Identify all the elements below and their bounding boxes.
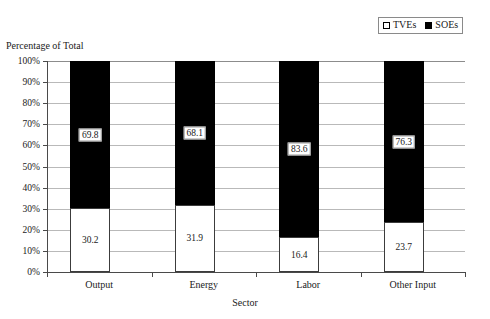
- filled-square-icon: [425, 22, 432, 29]
- y-axis-tick-label: 20%: [0, 225, 40, 235]
- y-axis-tick-labels: 0%10%20%30%40%50%60%70%80%90%100%: [0, 61, 45, 272]
- legend-label-soes: SOEs: [435, 19, 458, 31]
- bar-segment-tves[interactable]: 23.7: [384, 222, 424, 272]
- x-axis-tick-mark: [361, 272, 362, 277]
- bar-value-label-tves: 30.2: [80, 235, 101, 246]
- bar-segment-tves[interactable]: 31.9: [175, 205, 215, 272]
- stacked-bar[interactable]: 30.269.8: [70, 61, 110, 272]
- stacked-bar[interactable]: 23.776.3: [384, 61, 424, 272]
- bar-value-label-soes: 68.1: [183, 126, 206, 139]
- plot-area: 30.269.831.968.116.483.623.776.3: [47, 61, 465, 272]
- bar-segment-soes[interactable]: 76.3: [384, 61, 424, 222]
- x-axis-tick-label: Energy: [189, 279, 218, 291]
- x-axis-tick-label: Other Input: [390, 279, 436, 291]
- legend-item-tves: TVEs: [383, 19, 416, 31]
- y-axis-tick-label: 80%: [0, 98, 40, 108]
- x-axis-title: Sector: [0, 297, 490, 309]
- x-axis-tick-mark: [465, 272, 466, 277]
- bar-segment-tves[interactable]: 30.2: [70, 208, 110, 272]
- x-axis-tick-mark: [47, 272, 48, 277]
- hollow-square-icon: [383, 22, 390, 29]
- bar-value-label-tves: 16.4: [289, 249, 310, 260]
- bar-segment-soes[interactable]: 69.8: [70, 61, 110, 208]
- legend-label-tves: TVEs: [393, 19, 416, 31]
- bar-value-label-tves: 31.9: [184, 233, 205, 244]
- y-axis-tick-label: 90%: [0, 77, 40, 87]
- y-axis-tick-label: 70%: [0, 119, 40, 129]
- bar-segment-soes[interactable]: 83.6: [279, 61, 319, 237]
- y-axis-tick-label: 0%: [0, 267, 40, 277]
- bar-value-label-soes: 83.6: [288, 143, 311, 156]
- bar-segment-tves[interactable]: 16.4: [279, 237, 319, 272]
- y-axis-line: [47, 61, 48, 273]
- y-axis-tick-label: 10%: [0, 246, 40, 256]
- stacked-bar[interactable]: 31.968.1: [175, 61, 215, 272]
- bar-value-label-soes: 76.3: [392, 135, 415, 148]
- x-axis-tick-mark: [152, 272, 153, 277]
- y-axis-tick-label: 100%: [0, 56, 40, 66]
- legend-item-soes: SOEs: [425, 19, 458, 31]
- stacked-bar[interactable]: 16.483.6: [279, 61, 319, 272]
- y-axis-tick-label: 50%: [0, 162, 40, 172]
- y-axis-tick-label: 60%: [0, 140, 40, 150]
- x-axis-tick-mark: [256, 272, 257, 277]
- bar-value-label-soes: 69.8: [79, 128, 102, 141]
- bar-value-label-tves: 23.7: [393, 242, 414, 253]
- y-axis-title: Percentage of Total: [6, 40, 83, 52]
- bar-segment-soes[interactable]: 68.1: [175, 61, 215, 205]
- x-axis-tick-label: Output: [85, 279, 113, 291]
- y-axis-tick-label: 40%: [0, 183, 40, 193]
- chart-legend: TVEs SOEs: [378, 17, 463, 34]
- x-axis-tick-label: Labor: [296, 279, 320, 291]
- y-axis-tick-label: 30%: [0, 204, 40, 214]
